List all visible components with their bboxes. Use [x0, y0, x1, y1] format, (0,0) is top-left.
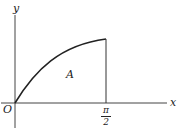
y-axis-label: y [13, 3, 19, 14]
x-axis-label: x [170, 97, 176, 108]
region-label: A [66, 69, 74, 80]
sine-curve [15, 39, 106, 103]
area-diagram [0, 0, 180, 136]
origin-label: O [3, 104, 12, 115]
fraction-numerator: π [99, 106, 113, 115]
fraction-denominator: 2 [99, 118, 113, 127]
x-tick-pi-over-2: π 2 [99, 106, 113, 127]
